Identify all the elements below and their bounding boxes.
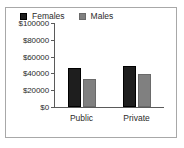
y-axis-tick (51, 40, 54, 41)
legend-item-males[interactable]: Males (79, 11, 114, 21)
y-axis-tick (51, 107, 54, 108)
bar-private-females[interactable] (123, 66, 136, 107)
y-axis-tick-label: $20000 (23, 86, 49, 95)
y-axis-tick-label: $40000 (23, 69, 49, 78)
y-axis-tick (51, 73, 54, 74)
y-axis-tick (51, 57, 54, 58)
bar-private-males[interactable] (138, 74, 151, 107)
y-axis-line (54, 23, 55, 108)
legend-swatch-males-icon (79, 13, 86, 20)
y-axis-tick (51, 90, 54, 91)
y-axis-tick-label: $0 (40, 103, 49, 112)
y-axis-tick-label: $80000 (23, 35, 49, 44)
x-axis-line (54, 107, 164, 108)
y-axis-tick (51, 23, 54, 24)
x-axis-label-public: Public (70, 113, 93, 123)
x-axis-label-private: Private (123, 113, 149, 123)
y-axis-tick-label: $60000 (23, 52, 49, 61)
plot-area: $0$20000$40000$60000$80000$100000 Public… (54, 23, 164, 107)
bar-public-males[interactable] (83, 79, 96, 107)
y-axis-tick-label: $100000 (19, 19, 49, 28)
legend-label-males: Males (91, 11, 114, 21)
chart-figure: Females Males $0$20000$40000$60000$80000… (5, 7, 177, 138)
bar-public-females[interactable] (68, 68, 81, 107)
